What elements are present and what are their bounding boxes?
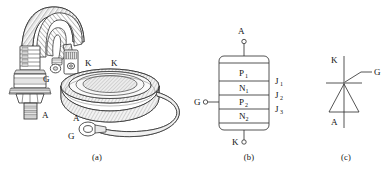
svg-text:1: 1 — [245, 73, 248, 79]
svg-text:2: 2 — [245, 102, 248, 108]
junction-label-j1: J 1 — [275, 76, 283, 87]
svg-text:J: J — [275, 90, 279, 100]
caption-b: (b) — [194, 152, 304, 162]
svg-text:J: J — [275, 104, 279, 114]
label-gate-lead: G — [43, 74, 50, 84]
anode-terminal-node — [242, 39, 246, 43]
panel-b-drawing: A P 1 N 1 P 2 N 2 — [194, 0, 304, 150]
gate-lead-c — [345, 72, 361, 82]
panel-a-drawing: G K A K A G — [0, 0, 194, 150]
label-cathode-b: K — [232, 137, 239, 147]
svg-text:2: 2 — [280, 95, 283, 101]
panel-b-structure: A P 1 N 1 P 2 N 2 — [194, 0, 304, 175]
svg-text:J: J — [275, 76, 279, 86]
panel-c-symbol: K G A (c) — [304, 0, 388, 175]
svg-text:2: 2 — [246, 116, 249, 122]
junction-label-j3: J 3 — [275, 104, 283, 115]
panel-c-drawing: K G A — [304, 0, 388, 150]
label-anode-stud: A — [42, 110, 49, 120]
svg-text:P: P — [239, 68, 244, 78]
gate-terminal-node — [203, 100, 207, 104]
thyristor-figure: G K A K A G (a) A P 1 — [0, 0, 388, 175]
junction-label-j2: J 2 — [275, 90, 283, 101]
caption-c: (c) — [304, 152, 388, 162]
cathode-terminal-node — [242, 140, 246, 144]
label-cathode-disc: K — [111, 58, 118, 68]
svg-text:3: 3 — [280, 109, 283, 115]
gate-lug-terminal — [50, 58, 62, 73]
caption-a: (a) — [0, 152, 194, 162]
cathode-lug-terminal — [64, 50, 78, 74]
label-gate-b: G — [194, 97, 201, 107]
label-gate-disc: G — [68, 131, 75, 141]
svg-text:1: 1 — [280, 81, 283, 87]
svg-text:1: 1 — [246, 88, 249, 94]
label-cathode-c: K — [331, 55, 338, 65]
label-gate-c: G — [374, 67, 381, 77]
label-anode-b: A — [238, 26, 245, 36]
label-anode-c: A — [331, 117, 338, 127]
svg-text:P: P — [239, 97, 244, 107]
panel-a-photographs: G K A K A G (a) — [0, 0, 194, 175]
label-cathode-lead: K — [85, 58, 92, 68]
label-anode-disc: A — [73, 113, 80, 123]
